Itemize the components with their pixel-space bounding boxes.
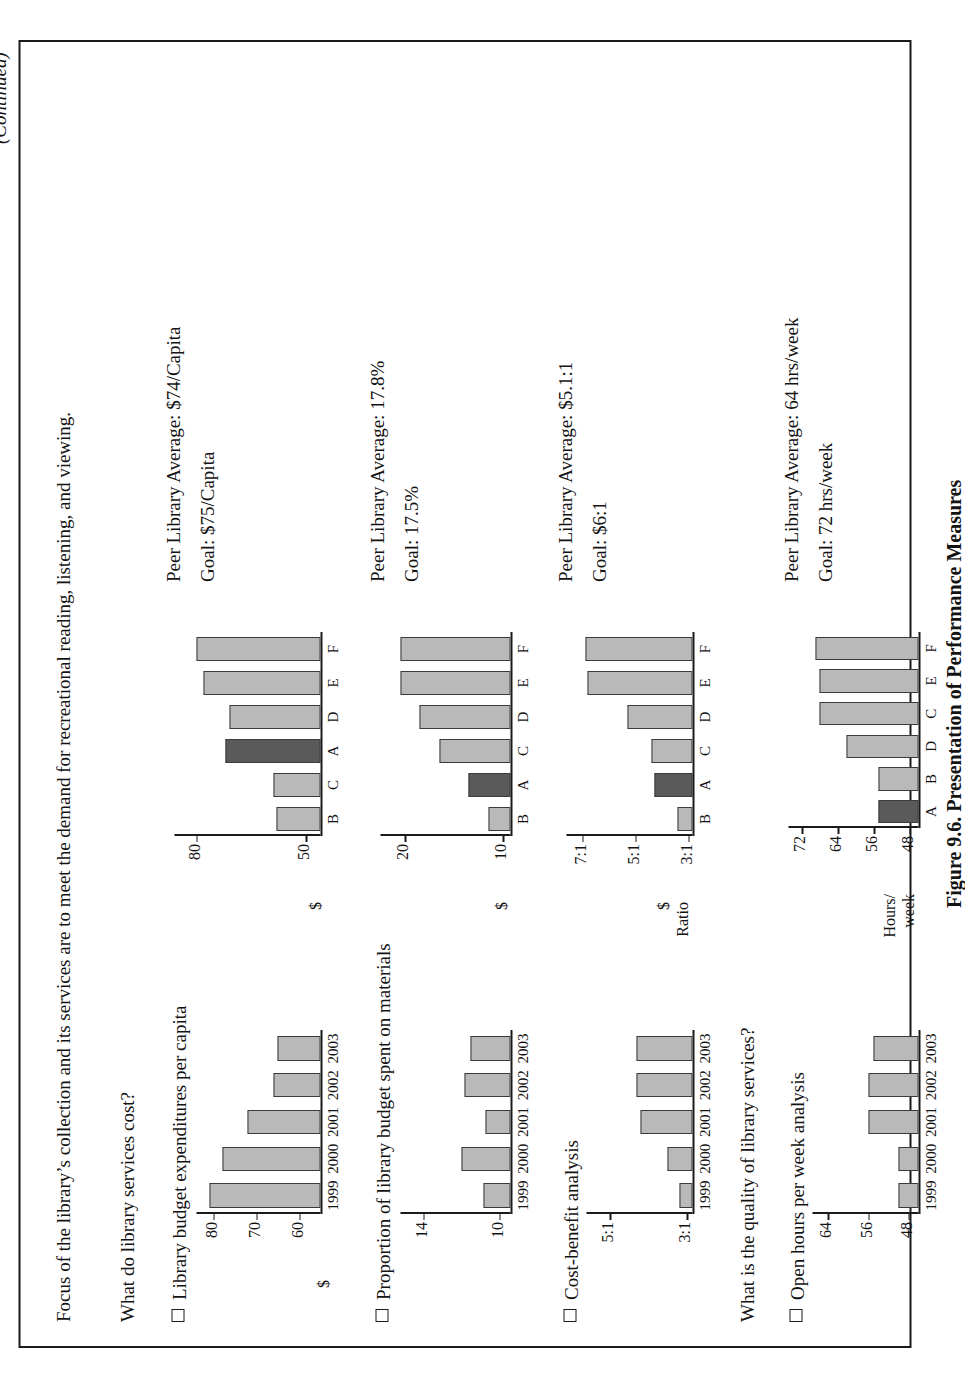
x-tick-label: 2001 (922, 1104, 939, 1141)
y-tick-label: 48 (898, 836, 916, 894)
measure-2-label: Proportion of library budget spent on ma… (372, 943, 393, 1300)
y-tick (299, 1213, 300, 1220)
x-axis (692, 632, 694, 836)
bar (868, 1110, 918, 1134)
y-axis-label-2: Ratio (673, 902, 691, 986)
measure-4-label: Open hours per week analysis (786, 1072, 807, 1300)
x-tick-label: A (922, 795, 939, 828)
bar (273, 1073, 320, 1097)
y-tick-label: 5:1 (598, 1222, 616, 1280)
bar (464, 1073, 510, 1097)
y-tick-label: 50 (294, 844, 312, 902)
y-axis (566, 834, 692, 836)
y-tick-label: 80 (185, 844, 203, 902)
bar (898, 1147, 918, 1171)
y-tick (688, 835, 689, 842)
measure-3-label: Cost-benefit analysis (560, 1140, 581, 1300)
x-tick-label: D (696, 700, 713, 734)
y-tick (873, 827, 874, 834)
measure-2-label-row: Proportion of library budget spent on ma… (372, 943, 394, 1322)
bar (819, 669, 918, 693)
x-axis (510, 632, 512, 836)
x-tick-label: 2002 (922, 1067, 939, 1104)
x-tick-label: E (324, 666, 341, 700)
y-tick-label: 14 (412, 1222, 430, 1280)
measure-3-label-row: Cost-benefit analysis (560, 1140, 582, 1322)
bar (247, 1110, 320, 1134)
bar (276, 807, 320, 831)
x-tick-label: F (696, 632, 713, 666)
checkbox-icon[interactable] (375, 1309, 388, 1322)
lead-paragraph: Focus of the library’s collection and it… (52, 412, 74, 1322)
question-1: What do library services cost? (116, 1092, 138, 1322)
x-tick-label: C (324, 768, 341, 802)
y-axis-label: $ (492, 902, 510, 986)
y-tick-label: 60 (288, 1222, 306, 1280)
measure-1-trend-chart: 607080$19992000200120022003 (196, 1030, 346, 1290)
y-axis-label: Hours/ (880, 894, 898, 978)
y-axis (380, 834, 510, 836)
y-tick-label: 48 (897, 1222, 915, 1280)
x-tick-label: 2002 (696, 1067, 713, 1104)
bar (225, 739, 320, 763)
measure-3-trend-chart: 3:15:119992000200120022003 (586, 1030, 718, 1290)
measure-1-goal: Goal: $75/Capita (196, 452, 218, 582)
bar (273, 773, 320, 797)
continued-note: (Continued) (0, 52, 10, 144)
y-tick-label: 80 (202, 1222, 220, 1280)
y-tick-label: 5:1 (624, 844, 642, 902)
bar (196, 637, 320, 661)
y-tick (635, 835, 636, 842)
bar (640, 1110, 692, 1134)
x-tick-label: F (922, 632, 939, 665)
x-tick-label: 2003 (324, 1030, 341, 1067)
bar (439, 739, 510, 763)
y-tick-label: 7:1 (571, 844, 589, 902)
x-tick-label: E (514, 666, 531, 700)
y-tick (868, 1213, 869, 1220)
bar (485, 1110, 510, 1134)
measure-4-goal: Goal: 72 hrs/week (814, 443, 836, 582)
measure-2-goal: Goal: 17.5% (400, 486, 422, 582)
checkbox-icon[interactable] (789, 1309, 802, 1322)
y-axis-label-2: week (899, 894, 917, 978)
y-axis (586, 1212, 692, 1214)
x-tick-label: C (514, 734, 531, 768)
y-tick (909, 827, 910, 834)
x-tick-label: 2000 (696, 1140, 713, 1177)
question-2: What is the quality of library services? (736, 1028, 758, 1322)
y-axis-label: $ (654, 902, 672, 986)
y-tick (196, 835, 197, 842)
y-tick (837, 827, 838, 834)
y-tick-label: 72 (790, 836, 808, 894)
bar (846, 735, 918, 759)
y-tick-label: 10 (491, 844, 509, 902)
bar (400, 671, 510, 695)
bar (277, 1036, 320, 1060)
x-tick-label: 2002 (324, 1067, 341, 1104)
x-tick-label: E (696, 666, 713, 700)
y-tick (686, 1213, 687, 1220)
measure-3-goal: Goal: $6:1 (588, 501, 610, 582)
checkbox-icon[interactable] (563, 1309, 576, 1322)
x-tick-label: 2001 (696, 1104, 713, 1141)
y-axis-label: $ (314, 1280, 332, 1364)
measure-4-peer-chart: 48566472Hours/weekABDCEF (788, 632, 944, 912)
x-tick-label: D (324, 700, 341, 734)
bar (222, 1147, 320, 1171)
bar (677, 807, 692, 831)
x-tick-label: 2003 (696, 1030, 713, 1067)
x-tick-label: B (696, 802, 713, 836)
x-axis (918, 632, 920, 828)
y-tick-label: 64 (816, 1222, 834, 1280)
x-tick-label: B (514, 802, 531, 836)
bar (585, 637, 692, 661)
bar (636, 1073, 692, 1097)
bar (229, 705, 320, 729)
bar (815, 637, 918, 661)
figure-caption: Figure 9.6. Presentation of Performance … (942, 480, 965, 908)
bar (873, 1036, 918, 1060)
x-tick-label: B (324, 802, 341, 836)
checkbox-icon[interactable] (171, 1309, 184, 1322)
bar (667, 1147, 692, 1171)
